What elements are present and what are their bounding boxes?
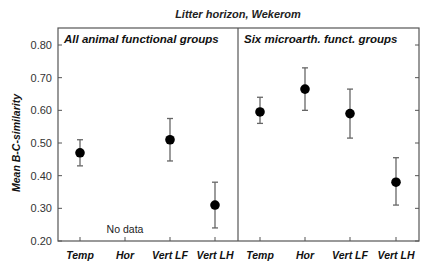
x-tick-label: Vert LH (197, 249, 234, 261)
x-tick-label: Hor (296, 249, 315, 261)
chart-container: Litter horizon, Wekerom Mean B-C-similar… (0, 0, 432, 275)
y-tick-label: 0.30 (31, 202, 52, 214)
mean-marker (300, 84, 310, 94)
no-data-annotation: No data (107, 223, 144, 235)
y-tick-label: 0.70 (31, 72, 52, 84)
y-axis-ticks: 0.200.300.400.500.600.700.80 (31, 39, 419, 247)
x-tick-label: Temp (66, 249, 94, 261)
x-tick-label: Vert LF (152, 249, 188, 261)
y-tick-label: 0.20 (31, 235, 52, 247)
data-point (75, 140, 85, 166)
mean-marker (345, 109, 355, 119)
x-tick-label: Vert LH (378, 249, 415, 261)
data-point (345, 89, 355, 138)
x-tick-label: Vert LF (332, 249, 368, 261)
panel-title: All animal functional groups (63, 33, 219, 45)
panel-1: All animal functional groupsTempHorVert … (63, 33, 234, 261)
mean-marker (165, 135, 175, 145)
mean-marker (75, 148, 85, 158)
mean-marker (210, 200, 220, 210)
chart-title: Litter horizon, Wekerom (175, 8, 301, 20)
y-tick-label: 0.50 (31, 137, 52, 149)
x-tick-label: Hor (116, 249, 135, 261)
plot-panels: All animal functional groupsTempHorVert … (58, 28, 419, 261)
panel-2: Six microarth. funct. groupsTempHorVert … (244, 33, 415, 261)
data-point (210, 182, 220, 228)
mean-marker (391, 177, 401, 187)
panel-title: Six microarth. funct. groups (244, 33, 397, 45)
data-point (255, 97, 265, 123)
data-point (300, 68, 310, 110)
data-point (391, 158, 401, 205)
mean-marker (255, 107, 265, 117)
x-tick-label: Temp (246, 249, 274, 261)
data-point (165, 119, 175, 161)
y-tick-label: 0.80 (31, 39, 52, 51)
y-tick-label: 0.60 (31, 104, 52, 116)
y-axis-label: Mean B-C-similarity (10, 93, 22, 192)
chart-svg: Litter horizon, Wekerom Mean B-C-similar… (0, 0, 432, 275)
y-tick-label: 0.40 (31, 170, 52, 182)
